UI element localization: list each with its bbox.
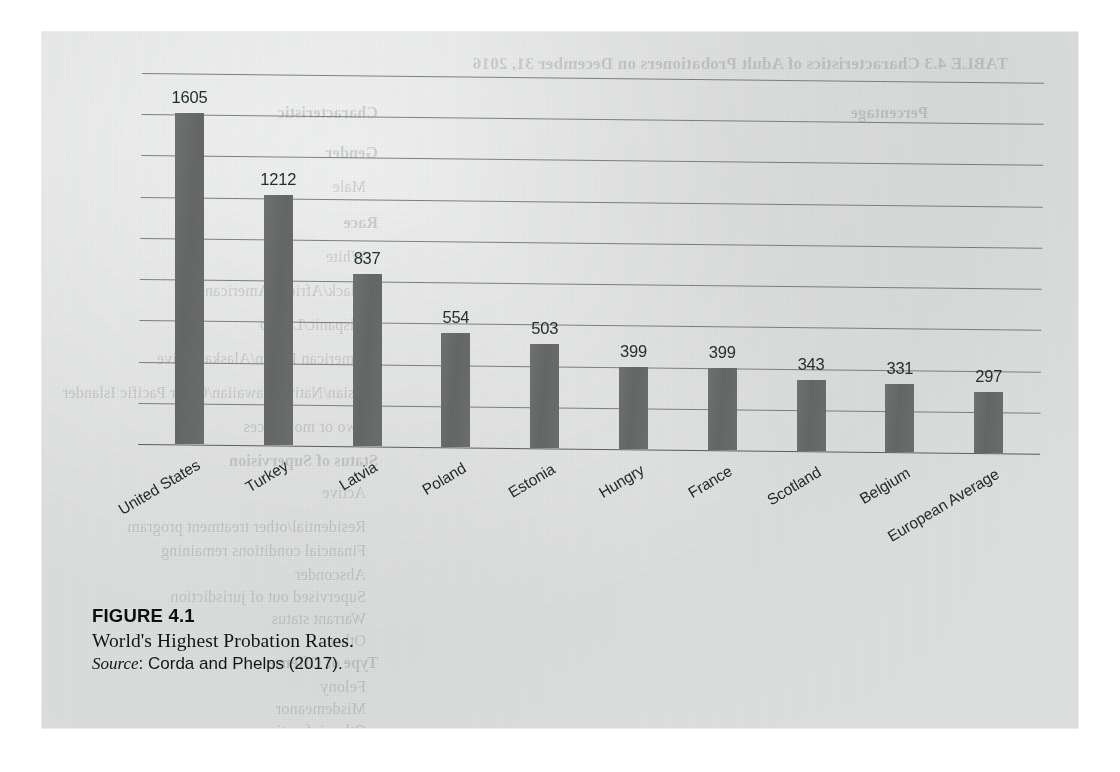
figure-source: Source: Corda and Phelps (2017). [92, 654, 712, 674]
source-label: Source [92, 654, 139, 673]
x-axis-tick-label-text: Poland [419, 459, 469, 499]
bar-value-label: 331 [886, 359, 913, 378]
source-citation: : Corda and Phelps (2017). [139, 654, 343, 673]
bar-value-label: 837 [354, 249, 381, 268]
bar [885, 384, 914, 452]
bar-value-label: 1605 [172, 88, 208, 107]
x-axis-tick-label-text: Belgium [856, 464, 913, 508]
figure-number: FIGURE 4.1 [92, 605, 712, 627]
bar [619, 367, 648, 449]
bar-value-label: 503 [531, 319, 558, 338]
bar [175, 113, 204, 444]
bar-value-label: 554 [442, 308, 469, 327]
bar-value-label: 399 [620, 342, 647, 361]
x-axis-tick-label-text: Turkey [243, 457, 292, 496]
bar-value-label: 343 [798, 355, 825, 374]
x-axis-tick-label-text: United States [115, 456, 203, 519]
x-axis-tick-label-text: Latvia [336, 458, 380, 494]
bar-value-label: 1212 [260, 170, 296, 189]
bar [441, 333, 470, 447]
bar [353, 274, 382, 447]
figure-caption: FIGURE 4.1 World's Highest Probation Rat… [92, 605, 712, 674]
x-axis-tick-label-text: Scotland [764, 463, 824, 509]
scanned-page: TABLE 4.3 Characteristics of Adult Proba… [42, 32, 1078, 728]
bar [264, 195, 293, 445]
bar-value-label: 399 [709, 343, 736, 362]
bar [530, 344, 559, 448]
bar [797, 380, 826, 451]
bar [974, 392, 1003, 453]
figure-title: World's Highest Probation Rates. [92, 630, 712, 652]
x-axis-tick-label-text: Hungry [595, 461, 647, 502]
bar-value-label: 297 [975, 367, 1002, 386]
bar [708, 368, 737, 450]
x-axis-tick-label-text: France [685, 462, 735, 502]
x-axis-tick-label-text: Estonia [505, 460, 558, 502]
